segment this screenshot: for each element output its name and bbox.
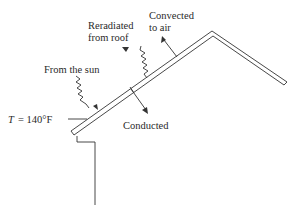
label-conducted: Conducted — [123, 120, 169, 131]
house-wall — [77, 136, 95, 205]
conducted-arrow — [130, 87, 148, 114]
label-temperature-variable: T — [8, 114, 15, 125]
reradiated-arrow — [122, 46, 148, 78]
label-reradiated-line1: Reradiated — [88, 20, 134, 31]
arrowhead-icon — [93, 104, 98, 110]
label-convected-line2: to air — [149, 22, 171, 33]
label-reradiated-line2: from roof — [88, 32, 129, 43]
roof-heat-transfer-diagram: From the sun Reradiated from roof Convec… — [0, 0, 303, 214]
arrowhead-icon — [122, 47, 129, 52]
sun-radiation-arrow — [76, 76, 98, 110]
roof-right-slope — [212, 31, 287, 85]
label-from-the-sun: From the sun — [44, 64, 100, 75]
label-convected-line1: Convected — [149, 10, 195, 21]
convected-arrow — [161, 36, 177, 57]
label-temperature-value: = 140°F — [18, 114, 52, 125]
